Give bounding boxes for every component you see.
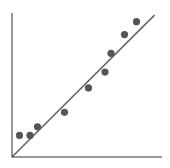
scatter-chart xyxy=(0,0,170,168)
data-point xyxy=(121,31,128,38)
data-point xyxy=(34,123,41,130)
data-point xyxy=(107,50,114,57)
data-point xyxy=(101,68,108,75)
data-point xyxy=(26,132,33,139)
data-point xyxy=(133,18,140,25)
data-point xyxy=(16,132,23,139)
data-points xyxy=(16,18,140,139)
data-point xyxy=(85,84,92,91)
data-point xyxy=(61,109,68,116)
